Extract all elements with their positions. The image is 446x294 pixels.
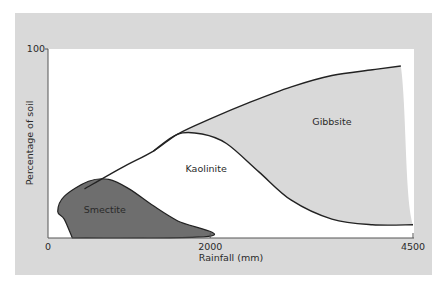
x-axis-label: Rainfall (mm) — [199, 252, 263, 263]
x-tick-label: 0 — [45, 241, 51, 252]
y-axis-label: Percentage of soil — [24, 101, 35, 186]
x-tick-label: 4500 — [401, 241, 425, 252]
region-label-smectite: Smectite — [84, 204, 126, 215]
y-tick-label: 100 — [27, 43, 45, 54]
region-label-kaolinite: Kaolinite — [186, 163, 227, 174]
x-tick-label: 2000 — [198, 241, 222, 252]
chart: 020004500100 Rainfall (mm) Percentage of… — [0, 0, 446, 294]
region-label-gibbsite: Gibbsite — [312, 116, 351, 127]
